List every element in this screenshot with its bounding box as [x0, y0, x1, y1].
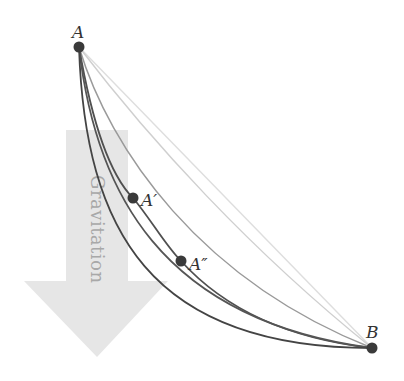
- gravitation-label: Gravitation: [87, 175, 108, 284]
- brachistochrone-diagram: Gravitation A A′ A″ B: [0, 0, 404, 381]
- label-b: B: [365, 322, 379, 342]
- point-b-dot: [367, 343, 378, 354]
- point-a-dot: [74, 42, 85, 53]
- label-a-double-prime: A″: [187, 254, 208, 274]
- label-a-prime: A′: [139, 190, 157, 210]
- gravitation-arrow: Gravitation: [24, 130, 168, 357]
- point-a-double-prime-dot: [176, 256, 187, 267]
- label-a: A: [70, 22, 84, 42]
- point-a-prime-dot: [128, 193, 139, 204]
